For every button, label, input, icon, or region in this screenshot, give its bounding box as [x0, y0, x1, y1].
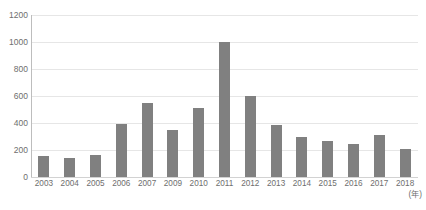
bar-slot: [186, 15, 212, 177]
bar: [374, 135, 385, 177]
bar-slot: [212, 15, 238, 177]
bar-slot: [289, 15, 315, 177]
bar: [348, 144, 359, 177]
y-tick-label: 400: [14, 119, 28, 127]
bar: [64, 158, 75, 177]
bar-slot: [57, 15, 83, 177]
bar-slot: [263, 15, 289, 177]
bar: [296, 137, 307, 178]
bar-slot: [31, 15, 57, 177]
bar: [142, 103, 153, 177]
bar: [90, 155, 101, 177]
x-axis-labels: 2003200420052006200720092010201120122013…: [31, 179, 418, 193]
bar: [219, 42, 230, 177]
x-tick-label: 2013: [267, 179, 285, 189]
y-tick-label: 0: [23, 173, 28, 181]
x-tick-label: 2006: [112, 179, 130, 189]
x-tick-label: 2012: [241, 179, 259, 189]
bar-slot: [108, 15, 134, 177]
x-tick-label: 2009: [164, 179, 182, 189]
x-axis-unit-label: (年): [409, 190, 422, 200]
x-tick-label: 2007: [138, 179, 156, 189]
x-tick-label: 2011: [216, 179, 234, 189]
bar: [271, 125, 282, 177]
bar: [322, 141, 333, 177]
bar: [38, 156, 49, 177]
bar-slot: [237, 15, 263, 177]
x-tick-label: 2016: [344, 179, 362, 189]
x-tick-label: 2015: [319, 179, 337, 189]
bar-slot: [315, 15, 341, 177]
bar-chart: 020040060080010001200 200320042005200620…: [0, 0, 426, 210]
bar: [193, 108, 204, 177]
clipped-title: [0, 0, 426, 7]
x-tick-label: 2014: [293, 179, 311, 189]
y-tick-label: 1000: [9, 38, 28, 46]
x-tick-label: 2018: [396, 179, 414, 189]
y-tick-label: 600: [14, 92, 28, 100]
bar-series: [31, 15, 418, 177]
bar-slot: [366, 15, 392, 177]
bar-slot: [160, 15, 186, 177]
x-tick-label: 2003: [35, 179, 53, 189]
bar: [116, 124, 127, 177]
x-tick-label: 2017: [370, 179, 388, 189]
x-tick-label: 2010: [190, 179, 208, 189]
bar-slot: [392, 15, 418, 177]
bar-slot: [83, 15, 109, 177]
y-axis-labels: 020040060080010001200: [0, 0, 31, 210]
y-tick-label: 800: [14, 65, 28, 73]
bar-slot: [341, 15, 367, 177]
bar: [400, 149, 411, 177]
x-tick-label: 2005: [86, 179, 104, 189]
y-tick-label: 1200: [9, 11, 28, 19]
bar-slot: [134, 15, 160, 177]
gridline-0: [31, 177, 418, 178]
bar: [167, 130, 178, 177]
plot-area: [31, 15, 418, 177]
x-tick-label: 2004: [61, 179, 79, 189]
y-tick-label: 200: [14, 146, 28, 154]
bar: [245, 96, 256, 177]
